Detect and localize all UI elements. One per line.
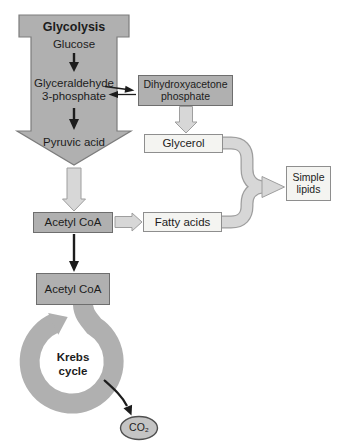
- simple-lipids-box: Simple lipids: [286, 166, 331, 201]
- fatty-acids-box: Fatty acids: [143, 212, 222, 232]
- pipe-glycerol: [222, 143, 263, 187]
- simple-lipids-line2: lipids: [297, 184, 321, 196]
- acetyl-coa-upper-label: Acetyl CoA: [45, 216, 102, 229]
- pipe-fattyacids: [221, 187, 263, 222]
- metabolic-pathway-diagram: Glycolysis Glucose Glyceraldehyde 3-phos…: [0, 0, 344, 446]
- acetyl-coa-lower-label: Acetyl CoA: [45, 283, 102, 296]
- simple-lipids-line1: Simple: [292, 172, 324, 184]
- krebs-line1: Krebs: [57, 350, 90, 364]
- arrow-pyruvic-to-acetylcoa: [63, 168, 86, 211]
- fatty-acids-label: Fatty acids: [155, 216, 211, 229]
- arrowhead-acetylcoa-down: [69, 261, 79, 272]
- arrow-acetylcoa-to-fattyacids: [115, 213, 142, 231]
- glucose-label: Glucose: [53, 38, 95, 51]
- arrowhead-to-simplelipids: [262, 177, 285, 198]
- arrow-dhap-to-glycerol: [175, 107, 197, 134]
- g3p-line1: Glyceraldehyde: [34, 77, 114, 90]
- krebs-line2: cycle: [57, 364, 90, 378]
- g3p-line2: 3-phosphate: [34, 90, 114, 103]
- pyruvic-acid-label: Pyruvic acid: [43, 136, 105, 149]
- arrowhead-krebs-to-co2: [124, 405, 133, 416]
- g3p-label: Glyceraldehyde 3-phosphate: [34, 77, 114, 102]
- glycerol-box: Glycerol: [144, 134, 223, 153]
- acetyl-coa-lower-box: Acetyl CoA: [36, 273, 110, 305]
- acetyl-coa-upper-box: Acetyl CoA: [33, 212, 113, 233]
- dhap-line1: Dihydroxyacetone: [143, 79, 227, 91]
- co2-label: CO₂: [129, 422, 149, 434]
- dhap-line2: phosphate: [161, 91, 210, 103]
- glycolysis-title: Glycolysis: [43, 21, 106, 35]
- glycerol-label: Glycerol: [162, 137, 204, 150]
- krebs-cycle-label: Krebs cycle: [57, 350, 90, 379]
- dhap-box: Dihydroxyacetone phosphate: [138, 75, 233, 106]
